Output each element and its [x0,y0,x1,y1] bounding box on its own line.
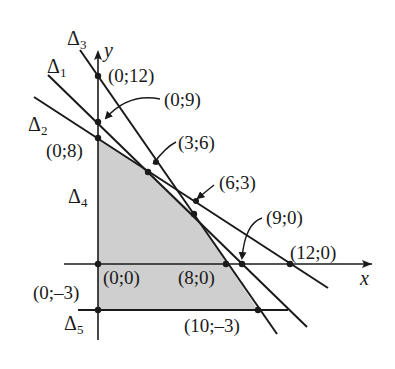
label-point-10-m3: (10;–3) [184,316,240,335]
delta1-symbol: Δ [47,55,60,77]
y-axis-label: y [104,40,113,60]
label-delta3: Δ3 [67,28,86,51]
delta4-symbol: Δ [68,185,81,207]
label-point-0-12: (0;12) [108,66,154,85]
dot-6-3 [191,211,197,217]
delta1-subscript: 1 [60,65,67,80]
label-delta5: Δ5 [64,313,83,336]
label-delta1: Δ1 [47,56,66,79]
dot-9-0 [239,261,245,267]
label-point-8-0: (8;0) [178,268,215,287]
dot-intersect-d1-d2 [193,198,199,204]
label-point-6-3: (6;3) [219,173,256,192]
delta5-subscript: 5 [77,322,84,337]
label-point-0-0: (0;0) [103,268,140,287]
dot-3-6 [145,169,151,175]
delta4-subscript: 4 [81,195,88,210]
label-point-0-9: (0;9) [164,90,201,109]
x-axis-label: x [360,268,369,288]
dot-10-m3 [255,307,261,313]
label-delta2: Δ2 [28,114,47,137]
delta5-symbol: Δ [64,312,77,334]
delta2-subscript: 2 [41,123,48,138]
dot-0-0 [95,261,101,267]
delta3-subscript: 3 [80,37,87,52]
dot-8-0 [223,261,229,267]
callout-6-3 [198,185,214,198]
dot-0-12 [95,73,101,79]
label-point-9-0: (9;0) [266,208,303,227]
label-point-12-0: (12;0) [290,243,336,262]
delta2-symbol: Δ [28,113,41,135]
dot-0-8 [95,135,101,141]
dot-0-9 [95,119,101,125]
dot-0-m3 [95,307,101,313]
label-point-0-8: (0;8) [46,141,83,160]
diagram-canvas: Δ3 Δ1 Δ2 Δ4 Δ5 y x (0;12) (0;9) (0;8) (3… [0,0,395,369]
label-point-3-6: (3;6) [178,133,215,152]
label-delta4: Δ4 [68,186,87,209]
label-point-0-m3: (0;–3) [33,283,79,302]
delta3-symbol: Δ [67,27,80,49]
